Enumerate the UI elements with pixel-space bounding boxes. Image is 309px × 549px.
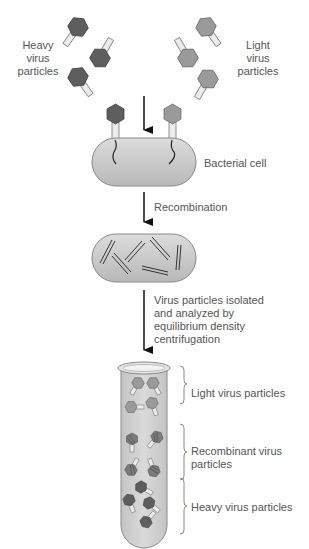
braces [180,366,187,534]
label-tube-light: Light virus particles [191,387,285,400]
label-light-virus-particles: Light virus particles [232,39,284,78]
label-line: particles [232,65,284,78]
heavy-virus-particles-group [58,14,119,101]
bacterial-cell [92,138,196,186]
label-recombination: Recombination [154,201,227,214]
label-line: Light [232,39,284,52]
label-line: equilibrium density [154,320,264,333]
label-line: Virus particles isolated [154,294,264,307]
label-line: centrifugation [154,333,264,346]
label-isolation-step: Virus particles isolated and analyzed by… [154,294,264,346]
label-tube-heavy: Heavy virus particles [191,501,292,514]
label-line: virus [12,52,64,65]
label-line: Recombinant virus [191,445,282,458]
label-line: particles [191,458,282,471]
light-virus-particles-group [169,14,226,103]
label-tube-recombinant: Recombinant virus particles [191,445,282,471]
label-line: virus [232,52,284,65]
label-line: particles [12,65,64,78]
label-heavy-virus-particles: Heavy virus particles [12,39,64,78]
label-line: and analyzed by [154,307,264,320]
label-line: Heavy [12,39,64,52]
label-bacterial-cell: Bacterial cell [204,157,266,170]
